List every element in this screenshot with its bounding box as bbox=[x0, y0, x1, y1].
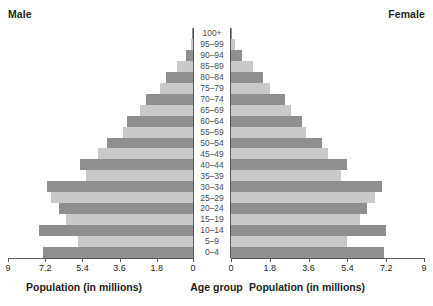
male-bar bbox=[80, 159, 193, 170]
female-bar-row bbox=[231, 170, 425, 181]
female-bar bbox=[231, 94, 285, 105]
axis-tick-label: 0 bbox=[190, 263, 195, 273]
female-bar-row bbox=[231, 72, 425, 83]
male-bar bbox=[98, 148, 193, 159]
female-bar bbox=[231, 203, 367, 214]
male-bar bbox=[39, 225, 193, 236]
female-bar bbox=[231, 28, 232, 39]
female-bar-row bbox=[231, 247, 425, 258]
age-group-label: 30–34 bbox=[194, 181, 230, 192]
female-x-axis bbox=[231, 258, 425, 259]
axis-tick-label: 1.8 bbox=[151, 263, 164, 273]
male-bar-row bbox=[8, 214, 193, 225]
male-bar bbox=[66, 214, 193, 225]
axis-tick-label: 9 bbox=[421, 263, 426, 273]
female-bar-row bbox=[231, 148, 425, 159]
male-legend-label: Male bbox=[8, 8, 32, 20]
male-bar-row bbox=[8, 159, 193, 170]
age-group-label-list: 0–45–910–1415–1920–2425–2930–3435–3940–4… bbox=[194, 28, 230, 258]
female-bar-row bbox=[231, 83, 425, 94]
axis-tick-label: 7.2 bbox=[39, 263, 52, 273]
female-plot-area bbox=[231, 28, 425, 258]
axis-tick-label: 7.2 bbox=[380, 263, 393, 273]
axis-tick-label: 3.6 bbox=[113, 263, 126, 273]
female-bar-row bbox=[231, 127, 425, 138]
axis-tick bbox=[8, 258, 9, 262]
female-bar bbox=[231, 192, 375, 203]
female-bar-row bbox=[231, 28, 425, 39]
female-bar bbox=[231, 225, 386, 236]
female-bar-row bbox=[231, 50, 425, 61]
female-x-tick-labels: 01.83.65.47.29 bbox=[231, 263, 425, 277]
male-bar bbox=[59, 203, 193, 214]
age-group-label: 95–99 bbox=[194, 39, 230, 50]
female-bar-row bbox=[231, 94, 425, 105]
female-bar bbox=[231, 138, 322, 149]
female-value-axis-line bbox=[230, 28, 231, 258]
male-bar-row bbox=[8, 170, 193, 181]
axis-tick bbox=[193, 258, 194, 262]
age-group-label: 40–44 bbox=[194, 159, 230, 170]
female-bar bbox=[231, 72, 263, 83]
female-bar bbox=[231, 247, 384, 258]
axis-tick-label: 3.6 bbox=[302, 263, 315, 273]
axis-tick bbox=[82, 258, 83, 262]
male-bar bbox=[140, 105, 193, 116]
age-group-label: 0–4 bbox=[194, 247, 230, 258]
male-bar bbox=[186, 50, 193, 61]
axis-tick bbox=[386, 258, 387, 262]
axis-tick bbox=[347, 258, 348, 262]
male-bar bbox=[146, 94, 193, 105]
female-bar-row bbox=[231, 203, 425, 214]
axis-tick bbox=[45, 258, 46, 262]
axis-tick bbox=[231, 258, 232, 262]
male-bar-row bbox=[8, 72, 193, 83]
population-pyramid-chart: Male Female 0–45–910–1415–1920–2425–2930… bbox=[0, 0, 433, 306]
male-bar bbox=[166, 72, 193, 83]
female-bar-row bbox=[231, 39, 425, 50]
female-bar-row bbox=[231, 116, 425, 127]
age-group-label: 10–14 bbox=[194, 225, 230, 236]
male-bar-row bbox=[8, 148, 193, 159]
age-group-label: 100+ bbox=[194, 28, 230, 39]
age-group-label: 75–79 bbox=[194, 83, 230, 94]
female-bar bbox=[231, 148, 328, 159]
female-bar bbox=[231, 61, 253, 72]
age-group-label: 55–59 bbox=[194, 127, 230, 138]
male-bar bbox=[43, 247, 193, 258]
axis-tick bbox=[270, 258, 271, 262]
male-x-tick-labels: 97.25.43.61.80 bbox=[8, 263, 194, 277]
female-bar bbox=[231, 83, 270, 94]
age-group-label: 85–89 bbox=[194, 61, 230, 72]
male-bar bbox=[107, 138, 193, 149]
female-bar-row bbox=[231, 138, 425, 149]
male-bar bbox=[127, 116, 193, 127]
male-bar-row bbox=[8, 181, 193, 192]
male-bar bbox=[86, 170, 193, 181]
male-bar-row bbox=[8, 28, 193, 39]
male-bar bbox=[123, 127, 193, 138]
male-bar-row bbox=[8, 225, 193, 236]
male-bar-row bbox=[8, 236, 193, 247]
axis-tick-label: 9 bbox=[5, 263, 10, 273]
age-group-label: 80–84 bbox=[194, 72, 230, 83]
female-bar-row bbox=[231, 159, 425, 170]
male-bar-row bbox=[8, 94, 193, 105]
female-bar-row bbox=[231, 214, 425, 225]
male-bar-row bbox=[8, 192, 193, 203]
age-group-axis-caption: Age group bbox=[0, 281, 433, 293]
male-plot-area bbox=[8, 28, 193, 258]
female-bar bbox=[231, 214, 360, 225]
female-bar-row bbox=[231, 236, 425, 247]
female-bar bbox=[231, 159, 347, 170]
female-bar-row bbox=[231, 192, 425, 203]
female-legend-label: Female bbox=[388, 8, 425, 20]
male-bar-row bbox=[8, 50, 193, 61]
axis-tick-label: 0 bbox=[228, 263, 233, 273]
female-bar-row bbox=[231, 225, 425, 236]
age-group-label: 70–74 bbox=[194, 94, 230, 105]
male-bar-row bbox=[8, 247, 193, 258]
female-bar bbox=[231, 105, 291, 116]
male-bar-row bbox=[8, 203, 193, 214]
male-bar-row bbox=[8, 39, 193, 50]
